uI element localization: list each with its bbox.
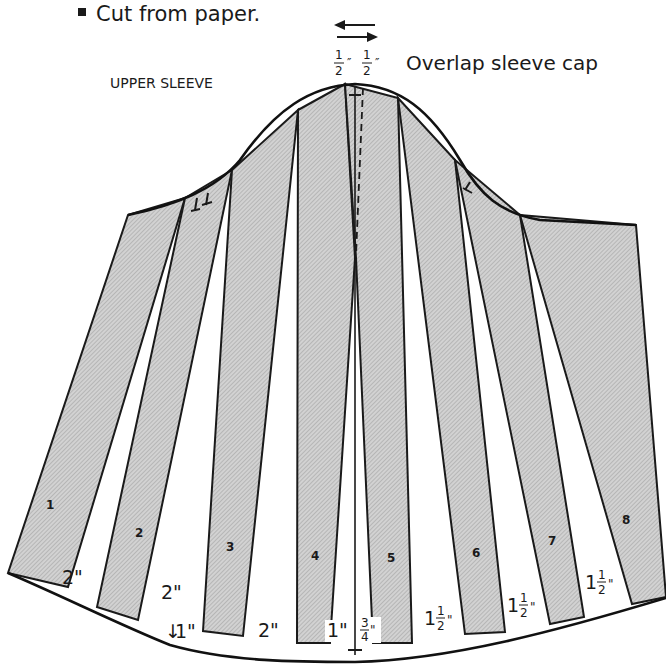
measurement-2-3-hem: ↓ 1 " (165, 620, 196, 642)
svg-text:1: 1 (437, 604, 445, 618)
strip-7-number: 7 (548, 534, 556, 548)
svg-text:1: 1 (507, 594, 519, 616)
svg-text:2: 2 (437, 619, 445, 633)
measurement-6-7: 1 1 2 " (507, 591, 536, 620)
measurement-2-3: 2 " (161, 581, 182, 603)
measurement-3-4: 2 " (258, 619, 279, 641)
svg-text:": " (339, 619, 348, 641)
svg-text:": " (608, 577, 614, 591)
svg-text:": " (370, 623, 376, 637)
strip-5-number: 5 (387, 551, 395, 565)
svg-text:1: 1 (585, 571, 597, 593)
svg-text:2: 2 (161, 581, 173, 603)
svg-text:1: 1 (327, 619, 339, 641)
svg-text:4: 4 (361, 630, 369, 644)
svg-text:": " (270, 619, 279, 641)
svg-text:2: 2 (258, 619, 270, 641)
measurement-7-8: 1 1 2 " (585, 568, 614, 597)
svg-text:3: 3 (361, 616, 369, 630)
svg-text:": " (187, 620, 196, 642)
strip-4-number: 4 (311, 549, 319, 563)
measurement-5-6: 1 1 2 " (424, 604, 453, 633)
svg-text:1: 1 (175, 620, 187, 642)
strip-2-number: 2 (135, 526, 143, 540)
measurement-1-2: 2 " (62, 566, 83, 588)
strip-1-number: 1 (46, 498, 54, 512)
svg-text:1: 1 (424, 607, 436, 629)
strip-3-number: 3 (226, 540, 234, 554)
measurement-center-5: 3 4 " (359, 616, 381, 644)
svg-text:2: 2 (598, 583, 606, 597)
svg-text:1: 1 (520, 591, 528, 605)
measurement-4-center: 1 " (325, 619, 353, 642)
strip-6-number: 6 (472, 546, 480, 560)
sleeve-pattern-diagram: Cut from paper. UPPER SLEEVE 1 2 ″ 1 2 ″… (0, 0, 666, 667)
svg-text:1: 1 (598, 568, 606, 582)
svg-text:": " (530, 600, 536, 614)
svg-text:": " (173, 581, 182, 603)
svg-text:": " (74, 566, 83, 588)
strip-8-number: 8 (622, 513, 630, 527)
svg-text:2: 2 (62, 566, 74, 588)
svg-text:2: 2 (520, 606, 528, 620)
svg-text:": " (447, 613, 453, 627)
